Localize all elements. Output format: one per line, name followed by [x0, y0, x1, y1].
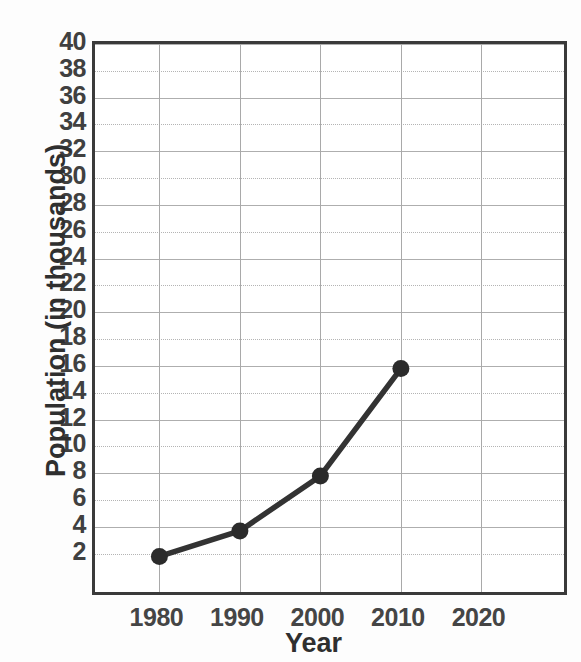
data-point-marker — [312, 467, 329, 484]
x-axis-title: Year — [0, 628, 581, 659]
x-axis-title-text: Year — [285, 628, 342, 659]
x-tick-label: 2010 — [353, 605, 443, 630]
data-point-marker — [392, 360, 409, 377]
line-chart-figure: 403836343230282624222018161412108642 198… — [0, 0, 581, 662]
y-axis-title: Population (in thousands) — [41, 101, 72, 521]
y-tick-label: 2 — [26, 539, 86, 564]
plot-area — [92, 41, 567, 595]
x-tick-label: 2020 — [433, 605, 523, 630]
population-line-series — [95, 44, 570, 598]
data-series-layer — [95, 44, 564, 592]
y-tick-label: 40 — [26, 29, 86, 54]
x-tick-label: 2000 — [272, 605, 362, 630]
x-tick-label: 1980 — [111, 605, 201, 630]
series-line — [159, 369, 401, 557]
y-tick-label: 38 — [26, 56, 86, 81]
data-point-marker — [151, 548, 168, 565]
x-tick-label: 1990 — [192, 605, 282, 630]
data-point-marker — [231, 522, 248, 539]
